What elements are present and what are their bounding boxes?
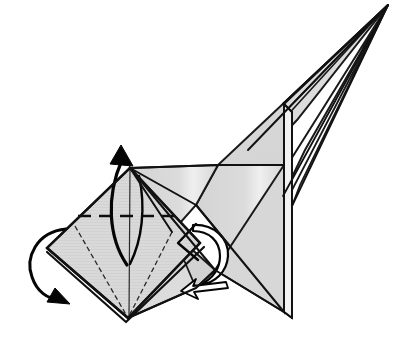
vertical-spine-fold [284, 104, 292, 318]
origami-diagram [0, 0, 401, 348]
origami-illustration [0, 0, 401, 348]
